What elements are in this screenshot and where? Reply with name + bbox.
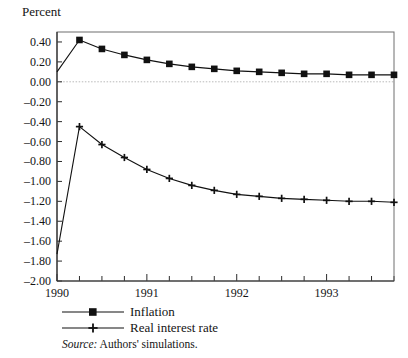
- y-tick-label: –1.60: [7, 235, 51, 247]
- legend-key-square-icon: [62, 305, 124, 319]
- data-point-marker: [144, 57, 151, 64]
- x-tick-label: 1990: [34, 287, 80, 299]
- data-point-marker: [166, 61, 173, 68]
- data-point-marker: [233, 68, 240, 75]
- y-tick-label: –0.20: [7, 96, 51, 108]
- plot-area: 0.400.200.00–0.20–0.40–0.60–0.80–1.00–1.…: [0, 0, 408, 300]
- data-point-marker: [256, 69, 263, 76]
- legend-item-real-interest-rate: Real interest rate: [62, 320, 392, 336]
- y-tick-label: –1.40: [7, 215, 51, 227]
- x-tick-label: 1991: [124, 287, 170, 299]
- y-tick-label: –1.20: [7, 195, 51, 207]
- x-tick-label: 1992: [214, 287, 260, 299]
- y-tick-label: –0.40: [7, 116, 51, 128]
- data-point-marker: [99, 46, 106, 53]
- data-point-marker: [368, 72, 375, 79]
- y-tick-label: 0.00: [7, 76, 51, 88]
- data-point-marker: [76, 37, 83, 44]
- data-point-marker: [211, 66, 218, 73]
- data-point-marker: [301, 71, 308, 78]
- y-tick-label: –0.80: [7, 155, 51, 167]
- source-prefix: Source:: [62, 338, 97, 350]
- data-point-marker: [323, 71, 330, 78]
- chart-legend: Inflation Real interest rate: [62, 304, 392, 336]
- data-point-marker: [121, 52, 128, 59]
- y-tick-label: 0.40: [7, 36, 51, 48]
- data-point-marker: [346, 72, 353, 79]
- chart-figure: Percent 0.400.200.00–0.20–0.40–0.60–0.80…: [0, 0, 408, 358]
- legend-item-inflation: Inflation: [62, 304, 392, 320]
- y-axis-ticks: [57, 42, 62, 281]
- source-text: Authors' simulations.: [100, 338, 198, 350]
- data-point-marker: [189, 64, 196, 71]
- legend-key-plus-icon: [62, 321, 124, 335]
- legend-label-real-interest-rate: Real interest rate: [124, 321, 218, 335]
- data-point-marker: [391, 72, 398, 79]
- data-series-group: [57, 37, 398, 254]
- y-tick-label: –1.00: [7, 175, 51, 187]
- y-tick-label: 0.20: [7, 56, 51, 68]
- x-tick-label: 1993: [304, 287, 350, 299]
- y-tick-label: –1.80: [7, 255, 51, 267]
- chart-svg: [0, 0, 408, 300]
- legend-label-inflation: Inflation: [124, 305, 175, 319]
- x-axis-ticks: [57, 274, 394, 281]
- y-tick-label: –0.60: [7, 136, 51, 148]
- data-point-marker: [278, 70, 285, 77]
- source-note: Source: Authors' simulations.: [62, 338, 198, 351]
